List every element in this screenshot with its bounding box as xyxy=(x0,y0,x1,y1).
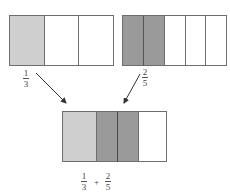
denominator: 3 xyxy=(82,183,87,191)
fraction-diagram xyxy=(0,0,230,194)
denominator: 3 xyxy=(24,80,29,88)
two-fifths-box xyxy=(123,16,227,66)
numerator: 1 xyxy=(24,69,29,77)
one-third-box xyxy=(10,16,114,66)
arrow-right xyxy=(124,74,140,103)
arrow-left xyxy=(36,73,66,103)
sum-box xyxy=(63,112,167,162)
denominator: 5 xyxy=(106,183,111,191)
plus-sign: + xyxy=(94,177,99,187)
label-sum-b: 2 5 xyxy=(105,172,111,191)
label-two-fifths: 2 5 xyxy=(142,68,148,87)
numerator: 1 xyxy=(82,172,87,180)
denominator: 5 xyxy=(143,79,148,87)
numerator: 2 xyxy=(106,172,111,180)
numerator: 2 xyxy=(143,68,148,76)
label-one-third: 1 3 xyxy=(23,69,29,88)
label-sum-a: 1 3 xyxy=(81,172,87,191)
